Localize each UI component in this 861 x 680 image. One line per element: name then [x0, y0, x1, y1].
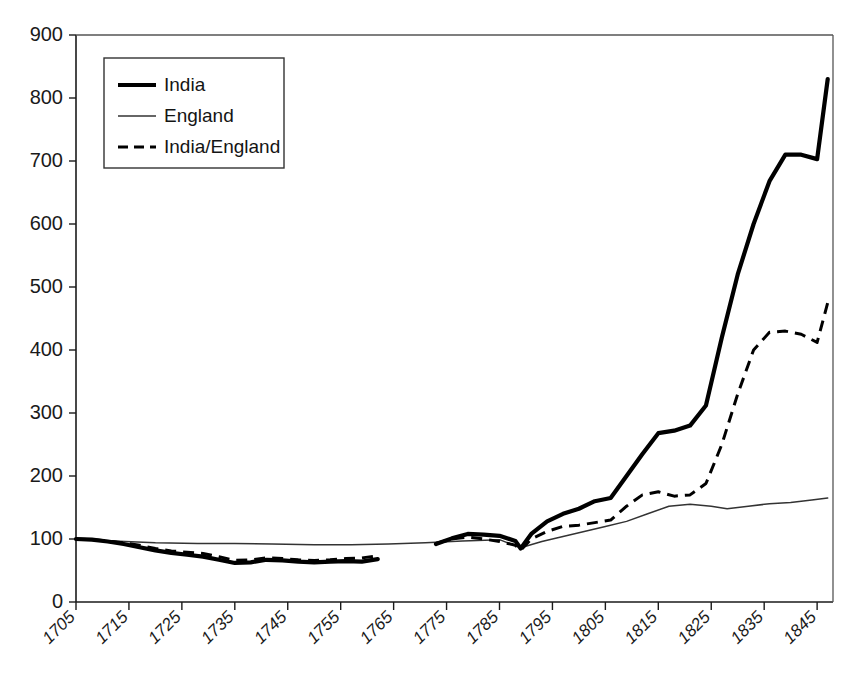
chart-container: 0100200300400500600700800900 17051715172…	[0, 0, 861, 680]
x-tick-label: 1815	[621, 607, 662, 648]
x-axis-ticks: 1705171517251735174517551765177517851795…	[39, 602, 821, 648]
x-tick-label: 1825	[674, 607, 715, 648]
line-chart: 0100200300400500600700800900 17051715172…	[0, 0, 861, 680]
y-tick-label: 600	[30, 212, 63, 234]
x-tick-label: 1775	[409, 607, 450, 648]
y-tick-label: 700	[30, 149, 63, 171]
x-tick-label: 1715	[92, 607, 133, 648]
series-line-india-england	[436, 303, 828, 551]
y-tick-label: 200	[30, 464, 63, 486]
legend-label: England	[164, 105, 234, 126]
y-tick-label: 0	[52, 590, 63, 612]
y-axis-ticks: 0100200300400500600700800900	[30, 23, 76, 612]
x-tick-label: 1835	[727, 607, 768, 648]
legend-label: India	[164, 74, 206, 95]
x-tick-label: 1785	[462, 607, 503, 648]
x-tick-label: 1845	[780, 607, 821, 648]
y-tick-label: 300	[30, 401, 63, 423]
x-tick-label: 1795	[515, 607, 556, 648]
x-tick-label: 1705	[39, 607, 80, 648]
x-tick-label: 1725	[145, 607, 186, 648]
x-tick-label: 1735	[197, 607, 238, 648]
x-tick-label: 1745	[250, 607, 291, 648]
y-tick-label: 100	[30, 527, 63, 549]
chart-legend: IndiaEnglandIndia/England	[104, 58, 284, 168]
y-tick-label: 500	[30, 275, 63, 297]
y-tick-label: 900	[30, 23, 63, 45]
x-tick-label: 1765	[356, 607, 397, 648]
y-tick-label: 400	[30, 338, 63, 360]
x-tick-label: 1755	[303, 607, 344, 648]
series-line-india	[436, 79, 828, 548]
legend-label: India/England	[164, 136, 280, 157]
x-tick-label: 1805	[568, 607, 609, 648]
y-tick-label: 800	[30, 86, 63, 108]
